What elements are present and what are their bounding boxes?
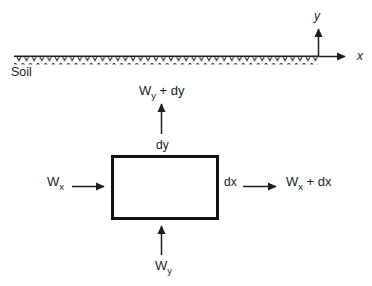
wy-dy-symbol: W bbox=[139, 83, 151, 98]
soil-label: Soil bbox=[11, 66, 32, 79]
y-axis-label: y bbox=[314, 10, 320, 22]
wx-dx-symbol: W bbox=[286, 174, 298, 189]
wx-subscript: x bbox=[59, 182, 64, 192]
control-volume-rectangle bbox=[113, 157, 218, 219]
dx-dimension-label: dx bbox=[224, 176, 237, 188]
wx-symbol: W bbox=[47, 174, 59, 189]
dy-dimension-label: dy bbox=[156, 139, 169, 151]
soil-surface-group bbox=[14, 56, 318, 64]
wy-subscript: y bbox=[167, 266, 172, 276]
wy-dy-tail: + dy bbox=[156, 83, 185, 98]
wy-symbol: W bbox=[155, 258, 167, 273]
wx-dx-tail: + dx bbox=[303, 174, 332, 189]
coordinate-axes-group bbox=[319, 29, 346, 57]
diagram-canvas bbox=[0, 0, 372, 286]
wx-label: Wx bbox=[47, 175, 64, 192]
soil-flux-diagram: y x Soil Wy + dy dy Wx dx Wx + dx Wy bbox=[0, 0, 372, 286]
wy-plus-dy-label: Wy + dy bbox=[139, 84, 185, 101]
x-axis-label: x bbox=[357, 50, 363, 62]
soil-hatching bbox=[14, 57, 318, 65]
wx-plus-dx-label: Wx + dx bbox=[286, 175, 332, 192]
wy-label: Wy bbox=[155, 259, 172, 276]
